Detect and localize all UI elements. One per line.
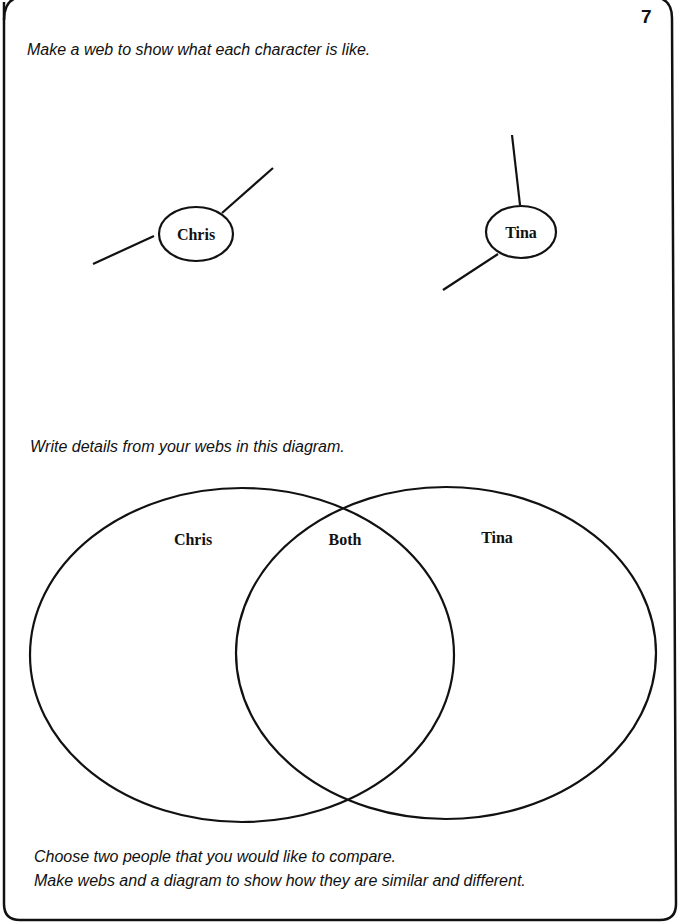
web-spoke[interactable] xyxy=(93,236,154,264)
character-web-chris: Chris xyxy=(93,168,273,264)
venn-right-circle[interactable] xyxy=(236,487,656,819)
worksheet-page: 7 Make a web to show what each character… xyxy=(0,0,678,923)
web-label-chris: Chris xyxy=(177,226,215,243)
character-web-tina: Tina xyxy=(443,135,556,290)
page-frame-top-left-corner xyxy=(4,0,16,20)
venn-instruction: Write details from your webs in this dia… xyxy=(30,438,345,455)
web-label-tina: Tina xyxy=(505,224,537,241)
page-number: 7 xyxy=(641,6,652,27)
web-spoke[interactable] xyxy=(443,254,498,290)
venn-diagram: Chris Both Tina xyxy=(30,487,656,822)
web-instruction: Make a web to show what each character i… xyxy=(27,41,370,58)
footer-instruction-line1: Choose two people that you would like to… xyxy=(34,848,396,865)
footer-instruction-line2: Make webs and a diagram to show how they… xyxy=(34,872,526,889)
venn-left-circle[interactable] xyxy=(30,488,454,822)
web-spoke[interactable] xyxy=(222,168,273,213)
venn-label-chris: Chris xyxy=(174,531,212,548)
venn-label-tina: Tina xyxy=(481,529,513,546)
venn-label-both: Both xyxy=(329,531,362,548)
web-spoke[interactable] xyxy=(512,135,520,205)
